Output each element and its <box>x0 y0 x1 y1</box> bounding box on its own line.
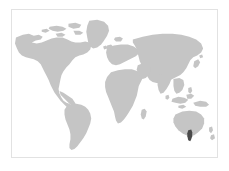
map-card[interactable]: World Map Grey world map with one highli… <box>11 9 218 158</box>
world-map-svg[interactable] <box>12 10 217 157</box>
world-map-widget: World Map Grey world map with one highli… <box>0 0 229 171</box>
